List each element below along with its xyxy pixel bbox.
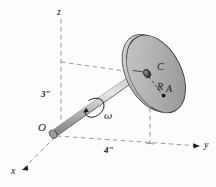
radius-label-r: R (157, 82, 163, 92)
axis-y-line (57, 136, 200, 146)
origin-label: O (38, 122, 46, 133)
angular-velocity-label: ω (104, 111, 112, 121)
diagram-svg (0, 0, 216, 187)
axis-label-y: y (204, 140, 208, 150)
axis-label-z: z (57, 7, 61, 17)
point-label-c: C (157, 62, 164, 72)
dimension-vertical-3in: 3" (41, 90, 51, 99)
axis-label-x: x (11, 166, 15, 176)
figure-canvas: z y x O 3" 4" C R A ω (0, 0, 216, 187)
dimension-horizontal-4in: 4" (104, 146, 114, 155)
disk (110, 23, 198, 124)
axis-y-arrowhead (193, 143, 200, 148)
point-label-a: A (166, 84, 172, 94)
point-a-marker (162, 94, 166, 98)
axis-x-line (22, 137, 55, 170)
